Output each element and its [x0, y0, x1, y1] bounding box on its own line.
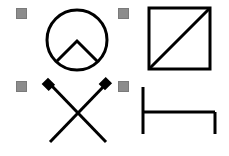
- square-diagonal-icon[interactable]: [149, 8, 210, 69]
- symbol-canvas: [0, 0, 229, 156]
- bracket-bed-icon[interactable]: [143, 87, 215, 134]
- crossed-lines-icon[interactable]: [44, 79, 110, 142]
- circle-chevron-icon[interactable]: [47, 10, 107, 70]
